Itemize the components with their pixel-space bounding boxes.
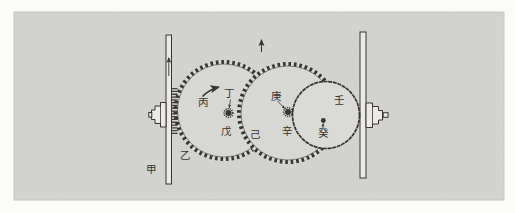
left-belt-bar <box>166 35 172 184</box>
axle-geng-core <box>285 109 291 115</box>
label-xin: 辛 <box>282 125 292 137</box>
label-gui: 癸 <box>318 127 329 139</box>
label-ji: 己 <box>250 128 261 140</box>
axle-ding-core <box>226 110 232 116</box>
label-jia: 甲 <box>146 163 156 175</box>
left-belt <box>166 35 172 184</box>
label-geng: 庚 <box>271 90 282 102</box>
right-belt-bar <box>360 32 366 178</box>
mechanism-figure: 甲 乙 丙 丁 戊 己 庚 辛 壬 癸 <box>0 0 515 213</box>
label-yi: 乙 <box>180 149 190 161</box>
right-bracket-nub <box>383 113 388 118</box>
label-ding: 丁 <box>224 87 234 99</box>
label-bing: 丙 <box>198 96 208 108</box>
label-ren: 壬 <box>334 94 344 106</box>
left-bracket-nub <box>149 113 152 118</box>
label-wu: 戊 <box>221 125 232 137</box>
wheel-center-dot <box>321 118 326 123</box>
